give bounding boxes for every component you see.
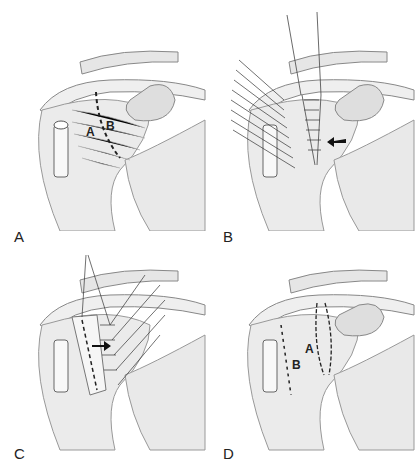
shoulder-illustration-a: A B: [0, 0, 209, 231]
panel-label-b: B: [223, 228, 233, 245]
region-label-b: B: [106, 119, 115, 133]
region-label-a: A: [305, 342, 314, 356]
region-label-b: B: [292, 358, 301, 372]
panel-b: [209, 0, 418, 231]
shoulder-illustration-d: A B: [209, 245, 418, 463]
panel-label-c: C: [14, 445, 25, 462]
panel-label-a: A: [14, 228, 24, 245]
panel-d: A B: [209, 245, 418, 463]
panel-label-d: D: [223, 445, 234, 462]
shoulder-illustration-c: [0, 245, 209, 463]
shoulder-illustration-b: [209, 0, 418, 231]
panel-c: [0, 245, 209, 463]
region-label-a: A: [86, 125, 95, 139]
panel-a: A B: [0, 0, 209, 231]
